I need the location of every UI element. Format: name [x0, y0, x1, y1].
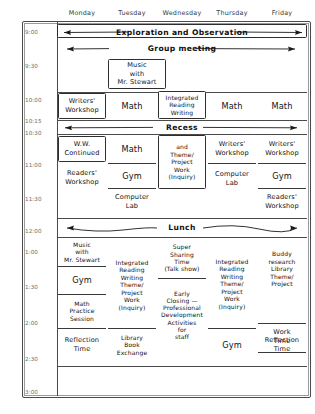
time-label-0230: 2:30: [25, 356, 38, 362]
time-label-0900: 9:00: [25, 29, 38, 35]
time-label-0930: 9:30: [25, 63, 38, 69]
time-gutter: 9:00 9:30 10:00 10:15 10:30 11:00 11:30 …: [22, 21, 57, 396]
block-thursday-writers-workshop[interactable]: Writers' Workshop: [208, 136, 256, 162]
block-tuesday-integrated-afternoon[interactable]: Integrated Reading Writing Theme/ Projec…: [108, 243, 156, 327]
block-thursday-integrated-afternoon[interactable]: Integrated Reading Writing Theme/ Projec…: [208, 241, 256, 327]
sep-tuesday-1130: [108, 188, 156, 189]
block-tuesday-gym[interactable]: Gym: [108, 165, 156, 187]
time-label-1030: 10:30: [25, 130, 42, 136]
sep-tuesday-230: [108, 328, 156, 329]
day-header-row: Monday Tuesday Wednesday Thursday Friday: [57, 6, 307, 20]
block-monday-math-practice-session[interactable]: Math Practice Session: [58, 296, 106, 326]
day-header-wednesday: Wednesday: [157, 6, 207, 20]
weekly-schedule-page: Monday Tuesday Wednesday Thursday Friday…: [0, 0, 315, 414]
banner-group-meeting: Group meeting: [57, 42, 307, 55]
day-header-friday: Friday: [257, 6, 307, 20]
block-thursday-math-morning[interactable]: Math: [208, 93, 256, 119]
banner-exploration-observation: Exploration and Observation: [57, 24, 307, 38]
banner-label-group-meeting: Group meeting: [57, 44, 307, 53]
day-header-tuesday: Tuesday: [107, 6, 157, 20]
block-monday-writers-workshop[interactable]: Writers' Workshop: [58, 93, 106, 119]
block-wednesday-super-sharing-time[interactable]: Super Sharing Time (Talk show): [158, 239, 206, 277]
banner-recess: Recess: [57, 121, 307, 134]
sep-friday-1130: [258, 188, 306, 189]
banner-lunch: Lunch: [57, 220, 307, 236]
block-monday-music-afternoon[interactable]: Music with Mr. Stewart: [58, 239, 106, 265]
time-label-1100: 11:00: [25, 162, 42, 168]
block-thursday-computer-lab[interactable]: Computer Lab: [208, 167, 256, 191]
block-monday-readers-workshop[interactable]: Readers' Workshop: [58, 165, 106, 191]
time-label-1200: 12:00: [25, 228, 42, 234]
sep-thursday-230: [208, 328, 256, 329]
block-friday-writers-workshop[interactable]: Writers' Workshop: [258, 136, 306, 162]
block-tuesday-math-morning[interactable]: Math: [108, 93, 156, 119]
day-header-monday: Monday: [57, 6, 107, 20]
sep-thursday-1100: [208, 163, 256, 164]
block-friday-buddy-research[interactable]: Buddy research Library Theme/ Project: [258, 241, 306, 297]
time-label-0200: 2:00: [25, 320, 38, 326]
block-thursday-gym-afternoon[interactable]: Gym: [208, 333, 256, 357]
sep-monday-200: [58, 294, 106, 295]
block-music-morning[interactable]: Music with Mr. Stewart: [108, 59, 166, 89]
block-friday-readers-workshop[interactable]: Readers' Workshop: [258, 190, 306, 214]
sep-tuesday-1100: [108, 163, 156, 164]
block-monday-reflection-time[interactable]: Reflection Time: [58, 331, 106, 359]
time-label-1015: 10:15: [25, 118, 42, 124]
block-friday-math-morning[interactable]: Math: [258, 93, 306, 119]
block-tuesday-math-late-morning[interactable]: Math: [108, 136, 156, 162]
block-monday-ww-continued[interactable]: W.W. Continued: [58, 136, 106, 162]
block-friday-gym[interactable]: Gym: [258, 165, 306, 187]
banner-label-lunch: Lunch: [57, 223, 307, 232]
schedule-grid: Exploration and Observation Group meetin…: [57, 21, 307, 396]
block-wednesday-integrated-reading-writing[interactable]: Integrated Reading Writing: [158, 91, 206, 119]
block-tuesday-computer-lab[interactable]: Computer Lab: [108, 190, 156, 214]
day-header-thursday: Thursday: [207, 6, 257, 20]
row-rule-300: [57, 366, 307, 367]
block-wednesday-theme-project-work[interactable]: and Theme/ Project Work (Inquiry): [158, 135, 206, 189]
block-monday-gym-afternoon[interactable]: Gym: [58, 268, 106, 292]
block-wednesday-early-closing[interactable]: Early Closing — Professional Development…: [158, 279, 206, 351]
time-label-1130: 11:30: [25, 196, 42, 202]
sep-friday-1100: [258, 163, 306, 164]
banner-label-recess: Recess: [57, 123, 307, 132]
sep-monday-230: [58, 328, 106, 329]
time-label-0130: 1:30: [25, 284, 38, 290]
sep-monday-130: [58, 266, 106, 267]
time-label-0100: 1:00: [25, 249, 38, 255]
banner-label-exploration: Exploration and Observation: [58, 28, 306, 37]
row-rule-lunch-bottom: [57, 237, 307, 238]
time-label-1000: 10:00: [25, 97, 42, 103]
block-friday-reflection-time[interactable]: Reflection Time: [258, 331, 306, 359]
block-tuesday-library-book-exchange[interactable]: Library Book Exchange: [108, 331, 156, 359]
time-label-0300: 3:00: [25, 389, 38, 395]
row-rule-lunch-top: [57, 218, 307, 219]
